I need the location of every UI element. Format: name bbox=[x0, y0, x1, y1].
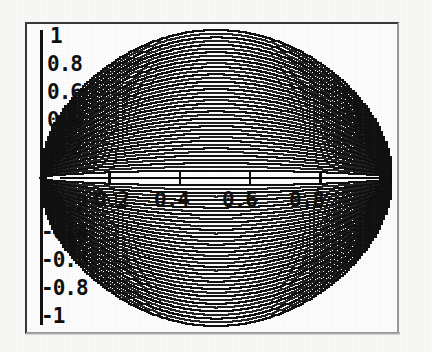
x-tick-label-0_8: 0.8 bbox=[289, 190, 324, 211]
y-tick-label-neg0_2: -0.2 bbox=[41, 194, 88, 215]
y-tick-label-0_6: 0.6 bbox=[47, 82, 82, 103]
y-tick-label-neg1: -1 bbox=[41, 306, 64, 327]
y-axis-line bbox=[40, 30, 43, 325]
x-tick-label-0_6: 0.6 bbox=[222, 190, 257, 211]
x-tick-label-0_4: 0.4 bbox=[154, 190, 189, 211]
y-tick-label-0_8: 0.8 bbox=[47, 54, 82, 75]
x-tick-label-1: 1 bbox=[375, 190, 387, 211]
y-tick-label-neg0_6: -0.6 bbox=[41, 250, 88, 271]
y-tick-label-1: 1 bbox=[50, 26, 62, 47]
y-tick-label-neg0_4: -0.4 bbox=[41, 222, 88, 243]
y-tick-label-0_2: 0.2 bbox=[47, 138, 82, 159]
frame-bottom-shadow bbox=[26, 332, 400, 335]
y-tick-label-0_4: 0.4 bbox=[47, 110, 82, 131]
figure-container: 1 0.8 0.6 0.4 0.2 -0.2 -0.4 -0.6 -0.8 -1… bbox=[0, 0, 432, 352]
x-tick-label-0_2: 0.2 bbox=[94, 190, 129, 211]
y-tick-label-neg0_8: -0.8 bbox=[41, 278, 88, 299]
